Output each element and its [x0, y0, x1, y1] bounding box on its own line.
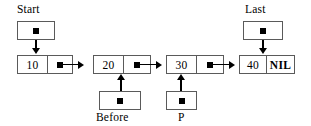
node-value-cell: 30 [167, 56, 197, 73]
pointer-box-before [99, 91, 141, 110]
arrowhead-node-30-right-icon [229, 61, 235, 69]
arrowhead-last-down-icon [259, 48, 267, 54]
linked-list-diagram: Start Last 10 20 30 4 [0, 0, 311, 126]
connector-node-20-to-node-30 [137, 64, 157, 66]
pointer-label-last: Last [245, 3, 266, 16]
node-value-cell: 10 [18, 56, 48, 73]
pointer-dot-icon [260, 28, 266, 34]
arrowhead-node-10-right-icon [78, 61, 84, 69]
connector-before-to-node-20 [120, 80, 122, 91]
node-value-cell: 40 [240, 56, 267, 73]
arrowhead-p-up-icon [177, 74, 185, 80]
pointer-box-last [243, 21, 283, 40]
pointer-label-p: P [178, 111, 185, 124]
arrowhead-before-up-icon [117, 74, 125, 80]
pointer-box-p [166, 91, 197, 110]
pointer-dot-icon [117, 98, 123, 104]
node-value-cell: 20 [94, 56, 124, 73]
pointer-box-start [17, 21, 55, 40]
connector-node-10-to-node-20 [60, 64, 79, 66]
list-node-tail: 40 NIL [239, 55, 295, 74]
node-nil-cell: NIL [267, 56, 294, 73]
connector-node-30-to-node-40 [210, 64, 230, 66]
arrowhead-node-20-right-icon [156, 61, 162, 69]
connector-p-to-node-30 [180, 80, 182, 91]
pointer-dot-icon [179, 98, 185, 104]
pointer-label-before: Before [96, 111, 129, 124]
arrowhead-start-down-icon [32, 48, 40, 54]
pointer-dot-icon [33, 28, 39, 34]
pointer-label-start: Start [17, 3, 40, 16]
